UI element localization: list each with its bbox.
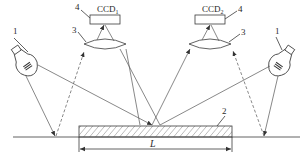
optical-measurement-diagram: L 2 CCD1 4 CCD2 4 3 3	[0, 0, 307, 160]
length-label: L	[149, 138, 156, 149]
svg-text:CCD1: CCD1	[97, 4, 119, 15]
workpiece-plate	[79, 126, 232, 137]
lamp-right: 1	[264, 26, 300, 80]
svg-text:1: 1	[275, 26, 280, 36]
svg-text:1: 1	[13, 26, 18, 36]
svg-text:2: 2	[222, 106, 227, 116]
svg-text:3: 3	[241, 27, 246, 37]
svg-text:CCD2: CCD2	[202, 4, 224, 15]
workpiece-callout: 2	[217, 106, 227, 126]
svg-text:4: 4	[238, 4, 243, 14]
lens-left: 3	[72, 25, 126, 49]
ccd-camera-right: CCD2 4	[195, 4, 243, 24]
dimension-length: L	[79, 137, 232, 152]
svg-text:4: 4	[75, 2, 80, 12]
lamp-left: 1	[6, 26, 42, 80]
svg-text:3: 3	[72, 25, 77, 35]
ccd-camera-left: CCD1 4	[75, 2, 120, 24]
